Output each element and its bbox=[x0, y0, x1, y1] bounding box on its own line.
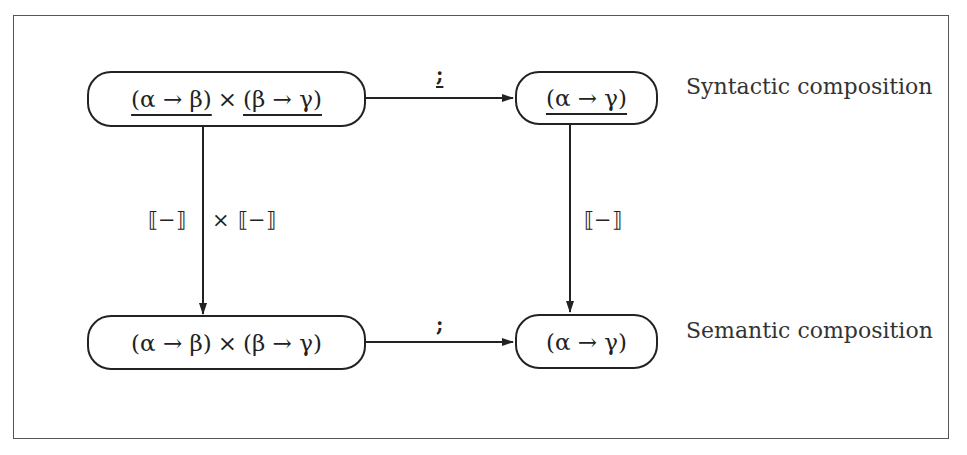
edge-left-label-times: × bbox=[212, 208, 230, 232]
node-bottom-left: (α → β) × (β → γ) bbox=[87, 315, 366, 370]
row-label-syntactic: Syntactic composition bbox=[686, 74, 933, 99]
node-top-right-text: (α → γ) bbox=[546, 85, 627, 111]
node-top-left-times: × bbox=[218, 86, 237, 112]
edge-right-label-semantic-bracket: ⟦−⟧ bbox=[584, 208, 622, 232]
node-top-left: (α → β) × (β → γ) bbox=[87, 71, 366, 127]
edge-left-label-semantic-bracket-1: ⟦−⟧ bbox=[148, 208, 186, 232]
edge-bottom-label: ; bbox=[436, 312, 443, 336]
node-bottom-left-times: × bbox=[218, 330, 237, 356]
diagram-edges bbox=[0, 0, 967, 455]
edge-left-label-semantic-bracket-2: ⟦−⟧ bbox=[238, 208, 276, 232]
node-bottom-right: (α → γ) bbox=[515, 314, 658, 369]
node-top-left-part-1: (α → β) bbox=[131, 86, 212, 112]
row-label-semantic: Semantic composition bbox=[686, 318, 933, 343]
node-bottom-left-part-1: (α → β) bbox=[131, 330, 212, 356]
node-bottom-right-text: (α → γ) bbox=[546, 329, 627, 355]
node-bottom-left-part-2: (β → γ) bbox=[243, 330, 322, 356]
edge-top-label: ; bbox=[436, 62, 443, 86]
node-top-right: (α → γ) bbox=[515, 71, 658, 125]
node-top-left-part-2: (β → γ) bbox=[243, 86, 322, 112]
